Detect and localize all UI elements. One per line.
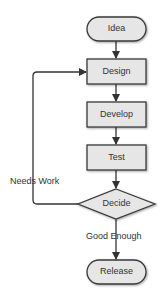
node-idea-label: Idea bbox=[87, 23, 146, 33]
node-test-label: Test bbox=[87, 152, 146, 162]
edge-label-needs-work: Needs Work bbox=[10, 176, 59, 186]
node-design-label: Design bbox=[87, 66, 146, 76]
node-develop-label: Develop bbox=[87, 109, 146, 119]
node-release-label: Release bbox=[87, 266, 146, 276]
edge-label-good-enough: Good Enough bbox=[86, 231, 142, 241]
node-decide-label: Decide bbox=[87, 198, 146, 208]
flowchart-canvas bbox=[0, 0, 162, 296]
